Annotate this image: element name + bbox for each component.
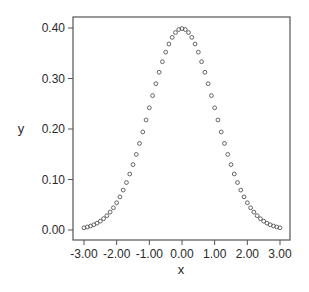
data-point: [128, 172, 132, 176]
data-point: [206, 82, 210, 86]
data-point: [112, 206, 116, 210]
data-point: [236, 181, 240, 185]
x-tick-label: 1.00: [203, 247, 227, 261]
x-axis: -3.00-2.00-1.000.001.002.003.00: [70, 240, 292, 261]
data-point: [190, 35, 194, 39]
data-point: [147, 106, 151, 110]
data-point: [108, 210, 112, 214]
data-point: [226, 153, 230, 157]
data-point: [245, 201, 249, 205]
x-tick-label: -2.00: [103, 247, 131, 261]
data-point: [102, 217, 106, 221]
data-point: [216, 118, 220, 122]
data-point: [138, 142, 142, 146]
data-point: [151, 94, 155, 98]
data-point: [105, 214, 109, 218]
x-axis-title: x: [178, 262, 185, 277]
data-point: [115, 201, 119, 205]
data-point: [174, 31, 178, 35]
data-point: [242, 195, 246, 199]
data-point: [141, 130, 145, 134]
data-points: [82, 27, 282, 230]
x-tick-label: 3.00: [268, 247, 292, 261]
data-point: [164, 50, 168, 54]
y-tick-label: 0.00: [42, 223, 66, 237]
y-axis-title: y: [18, 121, 25, 136]
y-tick-label: 0.20: [42, 122, 66, 136]
data-point: [196, 50, 200, 54]
x-tick-label: -3.00: [70, 247, 98, 261]
data-point: [131, 163, 135, 167]
data-point: [118, 195, 122, 199]
data-point: [125, 181, 129, 185]
plot-frame: [73, 17, 290, 240]
x-tick-label: 0.00: [170, 247, 194, 261]
data-point: [121, 188, 125, 192]
y-tick-label: 0.10: [42, 173, 66, 187]
data-point: [239, 188, 243, 192]
y-tick-label: 0.40: [42, 21, 66, 35]
data-point: [170, 35, 174, 39]
y-axis: 0.000.100.200.300.40: [42, 21, 73, 237]
data-point: [187, 31, 191, 35]
data-point: [161, 60, 165, 64]
data-point: [167, 42, 171, 46]
data-point: [193, 42, 197, 46]
data-point: [134, 153, 138, 157]
data-point: [219, 130, 223, 134]
data-point: [223, 142, 227, 146]
data-point: [213, 106, 217, 110]
data-point: [144, 118, 148, 122]
data-point: [154, 82, 158, 86]
data-point: [232, 172, 236, 176]
x-tick-label: -1.00: [136, 247, 164, 261]
scatter-chart: 0.000.100.200.300.40 -3.00-2.00-1.000.00…: [0, 0, 309, 292]
y-tick-label: 0.30: [42, 72, 66, 86]
data-point: [203, 70, 207, 74]
x-tick-label: 2.00: [236, 247, 260, 261]
data-point: [252, 210, 256, 214]
data-point: [255, 214, 259, 218]
data-point: [210, 94, 214, 98]
data-point: [157, 70, 161, 74]
data-point: [249, 206, 253, 210]
data-point: [229, 163, 233, 167]
data-point: [200, 60, 204, 64]
